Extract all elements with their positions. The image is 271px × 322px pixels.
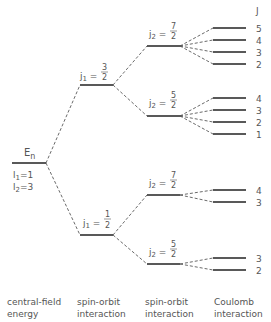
svg-text:j2 =: j2 =: [148, 247, 166, 259]
svg-text:j2 =: j2 =: [148, 98, 166, 110]
j2-5-2-lower-label: j2 = 5 2: [148, 240, 177, 259]
svg-text:7: 7: [171, 22, 176, 31]
j2-levels: j2 = 7 2 j2 = 5 2 j2 = 7 2 j2 = 5 2: [147, 22, 180, 264]
svg-text:3: 3: [256, 106, 262, 116]
svg-text:j2 =: j2 =: [148, 178, 166, 190]
connectors-2: [113, 46, 147, 264]
caption-line: interaction: [214, 308, 263, 320]
svg-text:j1 =: j1 =: [79, 71, 97, 83]
svg-text:2: 2: [171, 32, 176, 41]
j2-5-2-upper-label: j2 = 5 2: [148, 91, 177, 110]
caption-line: central-field: [7, 296, 61, 308]
svg-text:2: 2: [105, 221, 110, 230]
caption-line: spin-orbit: [145, 296, 194, 308]
svg-text:5: 5: [171, 240, 176, 249]
svg-text:3: 3: [256, 198, 262, 208]
svg-text:4: 4: [256, 186, 262, 196]
svg-text:2: 2: [171, 101, 176, 110]
connectors-3: [180, 28, 213, 270]
caption-line: spin-orbit: [77, 296, 126, 308]
svg-text:2: 2: [171, 250, 176, 259]
svg-text:7: 7: [171, 171, 176, 180]
svg-text:1: 1: [256, 130, 262, 140]
svg-text:2: 2: [102, 73, 107, 82]
energy-level-diagram: J En l1=1 l2=3 j1 = 3 2 j1 = 1 2: [0, 0, 271, 322]
svg-text:1: 1: [105, 210, 110, 219]
svg-text:3: 3: [256, 48, 262, 58]
svg-text:2: 2: [256, 118, 262, 128]
svg-text:2: 2: [171, 181, 176, 190]
j1-3-2-label: j1 = 3 2: [79, 63, 108, 83]
svg-text:j1 =: j1 =: [82, 218, 100, 230]
caption-line: interaction: [145, 308, 194, 320]
caption-central-field: central-field energy: [7, 296, 61, 320]
j1-levels: j1 = 3 2 j1 = 1 2: [79, 63, 113, 235]
svg-text:En: En: [24, 147, 35, 161]
connectors-1: [46, 85, 80, 235]
caption-line: interaction: [77, 308, 126, 320]
j2-7-2-lower-label: j2 = 7 2: [148, 171, 177, 190]
caption-spin-orbit-2: spin-orbit interaction: [145, 296, 194, 320]
coulomb-levels: [213, 28, 246, 270]
j1-1-2-label: j1 = 1 2: [82, 210, 111, 230]
caption-line: energy: [7, 308, 61, 320]
j-column-header: J: [255, 6, 259, 16]
svg-text:5: 5: [171, 91, 176, 100]
caption-coulomb: Coulomb interaction: [214, 296, 263, 320]
j2-7-2-upper-label: j2 = 7 2: [148, 22, 177, 41]
central-field-level: En l1=1 l2=3: [12, 147, 46, 194]
caption-line: Coulomb: [214, 296, 263, 308]
svg-text:2: 2: [256, 60, 262, 70]
svg-text:4: 4: [256, 36, 262, 46]
svg-text:5: 5: [256, 24, 262, 34]
svg-text:4: 4: [256, 94, 262, 104]
svg-text:3: 3: [102, 63, 107, 72]
j-value-labels: 5 4 3 2 4 3 2 1 4 3 3 2: [256, 24, 262, 276]
l1-label: l1=1: [13, 170, 33, 182]
caption-spin-orbit-1: spin-orbit interaction: [77, 296, 126, 320]
svg-text:2: 2: [256, 266, 262, 276]
l2-label: l2=3: [13, 182, 33, 194]
svg-text:j2 =: j2 =: [148, 29, 166, 41]
svg-text:3: 3: [256, 254, 262, 264]
